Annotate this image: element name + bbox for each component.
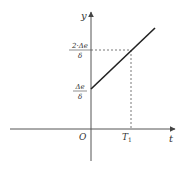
y-tick-delta-e-over-delta: Δe δ — [73, 83, 87, 101]
y-tick-2-delta-e-over-delta: 2·Δe δ — [69, 42, 91, 60]
origin-label: O — [79, 132, 87, 142]
svg-text:Δe: Δe — [74, 83, 84, 91]
svg-text:δ: δ — [78, 52, 82, 60]
x-axis-label: t — [169, 133, 174, 144]
svg-text:2·Δe: 2·Δe — [71, 42, 88, 50]
svg-text:δ: δ — [78, 93, 82, 101]
y-axis-label: y — [80, 10, 87, 21]
function-line — [91, 28, 155, 89]
graph-canvas: y t O T1 2·Δe δ Δe δ — [0, 0, 187, 172]
x-tick-t1: T1 — [122, 132, 132, 143]
